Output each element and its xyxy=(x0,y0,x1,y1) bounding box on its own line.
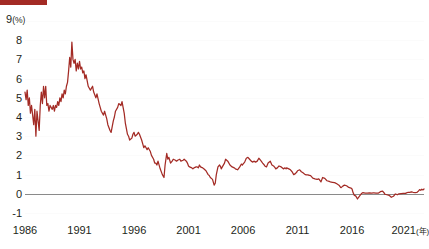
x-tick-label: 2006 xyxy=(231,224,255,236)
y-axis-tick-labels: 876543210-1 xyxy=(0,0,22,249)
x-tick-label: 1986 xyxy=(13,224,37,236)
y-tick-label: -1 xyxy=(0,207,22,219)
y-tick-label: 8 xyxy=(0,34,22,46)
y-tick-label: 4 xyxy=(0,111,22,123)
y-tick-label: 1 xyxy=(0,169,22,181)
y-tick-label: 3 xyxy=(0,130,22,142)
gridline xyxy=(25,213,424,214)
y-tick-label: 6 xyxy=(0,73,22,85)
x-tick-label: 2011 xyxy=(286,224,310,236)
x-tick-label: 2001 xyxy=(176,224,200,236)
y-tick-label: 7 xyxy=(0,53,22,65)
chart-figure: 9(%) 876543210-1 19861991199620012006201… xyxy=(0,0,429,249)
series-line-chart xyxy=(25,21,424,213)
x-tick-label: 2021(年) xyxy=(391,224,429,236)
x-axis-unit-suffix: (年) xyxy=(416,227,429,236)
x-tick-label: 1991 xyxy=(67,224,91,236)
y-tick-label: 5 xyxy=(0,92,22,104)
series-path-long-term-rate xyxy=(25,42,424,199)
plot-area xyxy=(25,21,424,213)
x-axis-tick-labels: 19861991199620012006201120162021(年) xyxy=(0,224,429,244)
y-tick-label: 0 xyxy=(0,188,22,200)
x-tick-label: 2016 xyxy=(340,224,364,236)
x-tick-label: 1996 xyxy=(122,224,146,236)
y-tick-label: 2 xyxy=(0,149,22,161)
